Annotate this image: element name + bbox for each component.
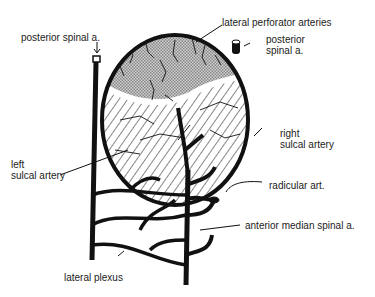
label-right-sulcal-line1: right xyxy=(280,128,299,139)
posterior-spinal-artery-right xyxy=(232,40,250,54)
label-right-sulcal-line2: sulcal artery xyxy=(280,139,334,150)
label-lateral-plexus: lateral plexus xyxy=(64,272,123,283)
label-left-sulcal-line1: left xyxy=(11,159,24,170)
label-posterior-spinal-left: posterior spinal a. xyxy=(21,32,100,43)
label-anterior-median-spinal: anterior median spinal a. xyxy=(245,220,355,231)
label-posterior-spinal-right-line2: spinal a. xyxy=(266,45,303,56)
label-lateral-perforator-arteries: lateral perforator arteries xyxy=(222,17,332,28)
posterior-spinal-artery-left xyxy=(92,42,100,260)
label-left-sulcal-line2: sulcal artery xyxy=(11,170,65,181)
label-radicular: radicular art. xyxy=(269,180,325,191)
label-posterior-spinal-right-line1: posterior xyxy=(266,34,305,45)
